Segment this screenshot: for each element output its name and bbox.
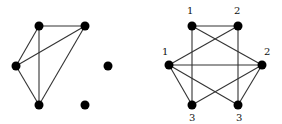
left-graph-node-b <box>81 22 90 31</box>
left-graph-edge-b-e <box>39 26 85 105</box>
left-graph-edge-a-c <box>16 26 39 66</box>
right-graph-node-l <box>165 61 174 70</box>
left-graph-node-c <box>12 62 21 71</box>
right-graph-node-tr <box>234 22 243 31</box>
left-graph-edge-c-e <box>16 66 39 105</box>
right-graph-node-label: 3 <box>236 112 242 123</box>
right-graph-edge-r-br <box>238 65 262 105</box>
right-graph-node-tl <box>188 22 197 31</box>
left-graph-node-f <box>81 101 90 110</box>
right-graph-node-bl <box>188 101 197 110</box>
right-graph-node-label: 2 <box>264 46 270 57</box>
right-graph-edge-l-bl <box>169 65 192 105</box>
left-graph-edge-b-c <box>16 26 85 66</box>
left-graph-node-a <box>35 22 44 31</box>
right-graph-node-label: 2 <box>234 5 240 16</box>
right-graph-node-br <box>234 101 243 110</box>
left-graph-node-e <box>35 101 44 110</box>
right-graph-node-r <box>258 61 267 70</box>
right-graph-node-label: 1 <box>187 5 193 16</box>
left-graph-node-d <box>104 62 113 71</box>
graph-diagram: 121233 <box>0 0 282 124</box>
right-graph-node-label: 3 <box>189 112 195 123</box>
right-graph-node-label: 1 <box>162 46 168 57</box>
labels-layer: 121233 <box>162 5 270 123</box>
edges-layer <box>16 26 262 105</box>
